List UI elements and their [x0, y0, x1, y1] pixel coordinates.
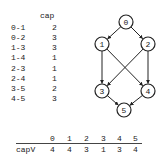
svg-text:5: 5: [122, 106, 127, 115]
vertex-col: 0: [50, 135, 55, 143]
vertex-col: 1: [67, 135, 72, 143]
svg-text:0: 0: [124, 18, 129, 27]
row-label: capV: [16, 146, 35, 154]
edge-0-2: [131, 27, 143, 39]
vertex-cap: 1: [101, 146, 106, 154]
vertex-cap: 4: [67, 146, 72, 154]
svg-text:3: 3: [100, 87, 105, 96]
table-divider: [16, 143, 142, 144]
edge-0-1: [108, 27, 121, 39]
flow-graph: 012345: [0, 0, 163, 158]
vertex-cap: 3: [84, 146, 89, 154]
node-5: 5: [117, 103, 131, 117]
edge-4-5: [130, 95, 143, 105]
svg-text:4: 4: [146, 87, 151, 96]
svg-text:1: 1: [100, 40, 105, 49]
vertex-cap: 4: [133, 146, 138, 154]
node-3: 3: [95, 84, 109, 98]
node-4: 4: [141, 84, 155, 98]
vertex-col: 3: [101, 135, 106, 143]
svg-text:2: 2: [146, 40, 151, 49]
edge-3-5: [107, 96, 118, 106]
vertex-col: 4: [117, 135, 122, 143]
node-2: 2: [141, 37, 155, 51]
vertex-col: 2: [84, 135, 89, 143]
vertex-cap: 4: [50, 146, 55, 154]
vertex-cap: 3: [117, 146, 122, 154]
node-0: 0: [119, 15, 133, 29]
node-1: 1: [95, 37, 109, 51]
vertex-col: 5: [133, 135, 138, 143]
